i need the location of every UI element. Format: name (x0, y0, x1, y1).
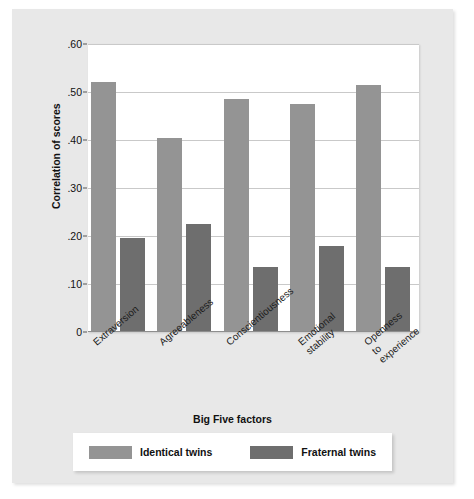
bar-identical-twins (91, 82, 116, 332)
bar-identical-twins (356, 85, 381, 332)
y-axis-tick-label: .40 (42, 134, 82, 146)
legend-item-identical-twins: Identical twins (89, 446, 212, 459)
y-axis-tick-label: .60 (42, 38, 82, 50)
y-axis-tick-mark (83, 236, 87, 237)
bar-identical-twins (290, 104, 315, 332)
bar-series-container (88, 44, 419, 332)
plot-area (88, 44, 419, 332)
legend-swatch-fraternal-twins (250, 446, 293, 459)
x-axis-title: Big Five factors (12, 413, 453, 425)
y-axis-tick-mark (83, 284, 87, 285)
y-axis-tick-mark (83, 140, 87, 141)
figure-container: Correlation of scores .60.50.40.30.20.10… (0, 0, 474, 499)
y-axis-tick-label: .30 (42, 182, 82, 194)
legend-item-fraternal-twins: Fraternal twins (250, 446, 376, 459)
y-axis-tick-mark (83, 44, 87, 45)
chart-legend: Identical twins Fraternal twins (73, 433, 392, 471)
bar-identical-twins (157, 138, 182, 332)
bar-identical-twins (224, 99, 249, 332)
plot-wrapper (88, 44, 419, 332)
y-axis-tick-mark (83, 188, 87, 189)
y-axis-tick-label: .50 (42, 86, 82, 98)
legend-swatch-identical-twins (89, 446, 132, 459)
chart-panel: Correlation of scores .60.50.40.30.20.10… (12, 9, 453, 483)
y-axis-tick-mark (83, 332, 87, 333)
legend-label-identical-twins: Identical twins (140, 446, 212, 458)
legend-label-fraternal-twins: Fraternal twins (301, 446, 376, 458)
y-axis-tick-label: .10 (42, 278, 82, 290)
y-axis-tick-label: 0 (42, 326, 82, 338)
y-axis-tick-label: .20 (42, 230, 82, 242)
y-axis-tick-mark (83, 92, 87, 93)
